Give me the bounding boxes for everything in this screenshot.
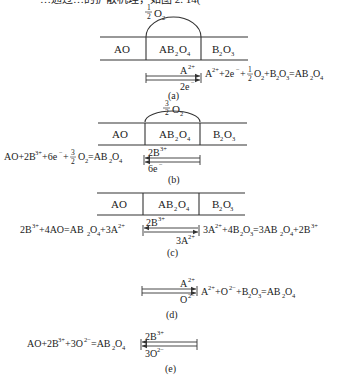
svg-text:3O: 3O	[145, 348, 157, 359]
svg-text:2−: 2−	[157, 346, 164, 353]
svg-text:2+: 2+	[188, 63, 195, 70]
svg-text:3: 3	[230, 205, 233, 212]
svg-text:+B: +B	[236, 286, 249, 297]
svg-text:+3A: +3A	[100, 224, 119, 235]
svg-text:−: −	[191, 79, 195, 86]
svg-text:=AB: =AB	[88, 151, 108, 162]
panel-b: 3 2 O2 AO AB2 O4 B2 O3 2B3+ 6e− AO+2B3+ …	[4, 99, 247, 186]
svg-text:2: 2	[220, 135, 223, 142]
svg-text:3+: 3+	[160, 145, 167, 152]
svg-text:AB: AB	[159, 128, 174, 140]
caption-b: (b)	[168, 174, 180, 186]
svg-text:3+: 3+	[311, 222, 318, 229]
svg-text:O: O	[223, 43, 231, 55]
svg-text:O: O	[224, 128, 232, 140]
svg-text:AB: AB	[158, 198, 173, 210]
svg-text:AO+2B: AO+2B	[4, 151, 36, 162]
svg-text:+2B: +2B	[293, 224, 311, 235]
svg-text:3: 3	[165, 99, 169, 108]
svg-text:=3AB: =3AB	[253, 224, 278, 235]
panel-c: AO AB2 O4 B2 O3 2B3+ 3A2+ 2B3+ +4AO=AB2 …	[20, 193, 318, 259]
gas-label-b: 3 2 O2	[163, 99, 183, 117]
svg-text:2e: 2e	[180, 81, 190, 92]
svg-text:4: 4	[122, 344, 126, 351]
svg-text:4: 4	[186, 205, 190, 212]
svg-text:4: 4	[119, 157, 123, 164]
svg-text:=AB: =AB	[261, 286, 281, 297]
svg-text:AO: AO	[111, 198, 127, 210]
svg-text:+4B: +4B	[222, 224, 240, 235]
svg-text:4: 4	[187, 135, 191, 142]
svg-text:=AB: =AB	[91, 338, 111, 349]
equation-c-right: 3A2+ +4B2 O3 =3AB2 O4 +2B3+	[203, 222, 318, 237]
caption-a: (a)	[168, 90, 179, 102]
svg-text:3+: 3+	[157, 329, 164, 336]
svg-text:+: +	[240, 68, 246, 79]
layer-ao: AO	[114, 43, 130, 55]
svg-text:AB: AB	[159, 43, 174, 55]
equation-a: A2+ +2e− + 1 2 O2 +B2 O3 =AB2 O4	[205, 65, 324, 83]
svg-text:+B: +B	[264, 68, 277, 79]
svg-text:2: 2	[165, 108, 169, 117]
panel-a: 1 2 O2 AO AB2 O4 B2 O3 A2+ 2e− A2+ +2e− …	[100, 3, 324, 102]
spinel-formation-diagram: …通过…的扩散机理，如图 2. 14( 1 2 O2 AO AB2 O4 B2 …	[0, 0, 344, 379]
caption-c: (c)	[167, 247, 178, 259]
svg-text:+3O: +3O	[65, 338, 83, 349]
svg-text:1: 1	[248, 65, 252, 74]
caption-e: (e)	[165, 363, 176, 375]
panel-e: 2B3+ 3O2− AO+2B3+ +3O2− =AB2 O4 (e)	[27, 329, 197, 375]
svg-text:+: +	[63, 151, 69, 162]
layer-b2o3: B2 O3	[212, 43, 234, 57]
svg-text:O: O	[178, 198, 186, 210]
svg-text:−: −	[159, 161, 163, 168]
svg-text:2: 2	[71, 157, 75, 166]
svg-text:2+: 2+	[188, 233, 195, 240]
svg-text:+O: +O	[215, 286, 228, 297]
equation-c-left: 2B3+ +4AO=AB2 O4 +3A2+	[20, 222, 125, 237]
svg-text:2+: 2+	[118, 222, 125, 229]
svg-text:3+: 3+	[158, 215, 165, 222]
svg-text:2−: 2−	[188, 292, 195, 299]
svg-text:6e: 6e	[148, 163, 158, 174]
svg-text:=AB: =AB	[289, 68, 309, 79]
svg-text:4: 4	[292, 292, 296, 299]
svg-text:O: O	[180, 294, 187, 305]
svg-text:2: 2	[219, 50, 222, 57]
svg-text:2B: 2B	[146, 217, 158, 228]
svg-text:A: A	[180, 65, 188, 76]
svg-text:2: 2	[219, 205, 222, 212]
svg-text:2: 2	[174, 205, 177, 212]
svg-text:2: 2	[147, 12, 151, 21]
svg-text:2B: 2B	[148, 147, 160, 158]
caption-d: (d)	[166, 309, 178, 321]
svg-text:+2e: +2e	[219, 68, 235, 79]
svg-text:AO+2B: AO+2B	[27, 338, 59, 349]
svg-text:O: O	[179, 128, 187, 140]
svg-text:3: 3	[231, 50, 234, 57]
svg-text:O: O	[172, 103, 180, 115]
svg-text:A: A	[180, 278, 188, 289]
panel-d: A2+ O2− A2+ +O2− +B2 O3 =AB2 O4 (d)	[142, 276, 296, 321]
svg-text:2B: 2B	[20, 224, 32, 235]
svg-text:3: 3	[71, 148, 75, 157]
svg-text:O: O	[154, 7, 162, 19]
svg-text:AO: AO	[112, 128, 128, 140]
svg-text:4: 4	[320, 74, 324, 81]
oxygen-arc	[146, 17, 201, 37]
svg-text:2: 2	[175, 50, 178, 57]
svg-text:1: 1	[147, 3, 151, 12]
svg-text:3: 3	[232, 135, 235, 142]
svg-text:2+: 2+	[188, 276, 195, 283]
layer-ab2o4: AB2 O4	[159, 43, 191, 57]
equation-e: AO+2B3+ +3O2− =AB2 O4	[27, 336, 126, 351]
svg-text:+4AO=AB: +4AO=AB	[39, 224, 84, 235]
svg-text:O: O	[179, 43, 187, 55]
equation-b: AO+2B3+ +6e− + 3 2 O2 =AB2 O4	[4, 148, 123, 166]
header-fragment: …通过…的扩散机理，如图 2. 14(	[40, 0, 201, 6]
svg-text:2B: 2B	[145, 331, 157, 342]
equation-d: A2+ +O2− +B2 O3 =AB2 O4	[201, 284, 296, 299]
svg-text:+6e: +6e	[42, 151, 58, 162]
svg-text:2: 2	[175, 135, 178, 142]
svg-text:2: 2	[248, 74, 252, 83]
svg-text:4: 4	[187, 50, 191, 57]
